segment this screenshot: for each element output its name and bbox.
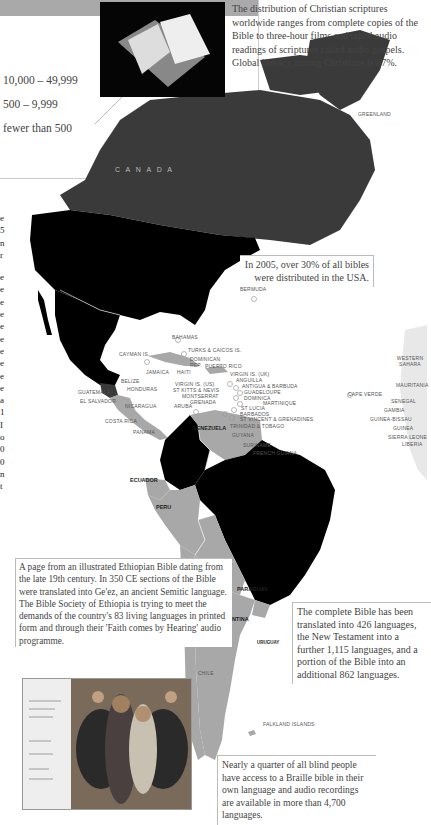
label-cape-verde: CAPE VERDE: [348, 391, 382, 397]
label-grenada: GRENADA: [190, 399, 216, 405]
label-sierra-leone: SIERRA LEONE: [388, 434, 427, 440]
label-gambia: GAMBIA: [384, 407, 405, 413]
open-book-icon: [100, 2, 225, 97]
label-el-salvador: EL SALVADOR: [80, 398, 116, 404]
label-costa-rica: COSTA RICA: [105, 418, 137, 424]
glyph: t: [0, 480, 6, 492]
label-panama: PANAMA: [133, 429, 155, 435]
intro-text: The distribution of Christian scriptures…: [232, 2, 427, 70]
label-guatemala: GUATEMALA: [78, 389, 110, 395]
label-guinea-bissau: GUINEA-BISSAU: [370, 416, 412, 422]
label-guyana: GUYANA: [232, 432, 254, 438]
glyph: e: [0, 333, 6, 345]
glyph: a: [0, 394, 6, 406]
baja-shape: [38, 290, 52, 335]
glyph: I: [0, 419, 6, 431]
glyph: e: [0, 357, 6, 369]
label-uruguay: URUGUAY: [257, 640, 279, 645]
glyph: e: [0, 370, 6, 382]
label-liberia: LIBERIA: [402, 441, 423, 447]
glyph: e: [0, 283, 6, 295]
glyph: e: [0, 345, 6, 357]
label-paraguay: PARAGUAY: [237, 586, 268, 592]
glyph: e: [0, 308, 6, 320]
label-suriname: SURINAME: [243, 442, 271, 448]
ethiopian-bible-image: [22, 678, 192, 810]
label-venezuela: VENEZUELA: [193, 425, 226, 431]
label-bahamas: BAHAMAS: [172, 334, 198, 340]
label-puerto-rico: PUERTO RICO: [205, 363, 242, 369]
glyph: e: [0, 382, 6, 394]
label-western-sahara: WESTERN SAHARA: [395, 355, 425, 367]
glyph: o: [0, 431, 6, 443]
callout-braille: Nearly a quarter of all blind people hav…: [217, 755, 376, 825]
label-trinidad: TRINIDAD & TOBAGO: [230, 423, 284, 429]
label-jamaica: JAMAICA: [146, 369, 169, 375]
glyph: r: [0, 249, 6, 261]
label-martinique: MARTINIQUE: [263, 400, 296, 406]
glyph: e: [0, 296, 6, 308]
clipped-left-column: e 5 n r e e e e e e e e e e a 1 I o 0 0 …: [0, 212, 6, 493]
illuminated-page-icon: [23, 679, 191, 809]
glyph: 5: [0, 224, 6, 236]
glyph: n: [0, 468, 6, 480]
glyph: n: [0, 237, 6, 249]
glyph: 0: [0, 443, 6, 455]
label-nicaragua: NICARAGUA: [125, 403, 157, 409]
label-honduras: HONDURAS: [127, 386, 157, 392]
glyph: 1: [0, 406, 6, 418]
label-canada: C A N A D A: [115, 166, 174, 173]
label-cayman: CAYMAN IS.: [119, 351, 150, 357]
label-mauritania: MAURITANIA: [396, 382, 428, 388]
label-peru: PERU: [156, 504, 171, 510]
label-falklands: FALKLAND ISLANDS: [263, 721, 315, 727]
label-ecuador: ECUADOR: [130, 477, 158, 483]
glyph: e: [0, 271, 6, 283]
glyph: e: [0, 320, 6, 332]
label-st-vincent: ST VINCENT & GRENADINES: [240, 416, 313, 422]
label-belize: BELIZE: [121, 378, 139, 384]
callout-ethiopian-bible: A page from an illustrated Ethiopian Bib…: [15, 558, 232, 647]
label-senegal: SENEGAL: [391, 398, 416, 404]
label-aruba: ARUBA: [174, 403, 192, 409]
glyph: e: [0, 212, 6, 224]
label-greenland: GREENLAND: [358, 111, 391, 117]
glyph: 0: [0, 456, 6, 468]
falklands-shape: [248, 730, 256, 736]
label-chile: CHILE: [198, 670, 214, 676]
label-haiti: HAITI: [177, 369, 191, 375]
label-french-guiana: FRENCH GUIANA: [253, 450, 297, 456]
callout-usa: In 2005, over 30% of all bibles were dis…: [240, 255, 374, 287]
label-turks: TURKS & CAICOS IS.: [188, 347, 241, 353]
label-guinea: GUINEA: [393, 425, 413, 431]
bible-photo: [100, 2, 225, 97]
callout-translations: The complete Bible has been translated i…: [292, 602, 431, 684]
